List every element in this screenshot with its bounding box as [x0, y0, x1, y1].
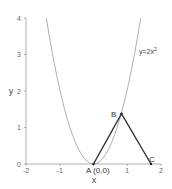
triangle-abc: [94, 114, 152, 164]
x-tick-label-2: 2: [159, 167, 163, 174]
point-b: [120, 112, 122, 114]
label-b: B: [111, 110, 116, 119]
y-tick-label-0: 0: [17, 161, 21, 168]
chart: 0 1 2 3 4 -2 -1 1 2 x y A (0,0) B C y=2x…: [0, 0, 172, 189]
x-axis-label: x: [92, 175, 97, 185]
label-a: A (0,0): [86, 166, 110, 175]
y-tick-label-2: 2: [17, 88, 21, 95]
label-c: C: [149, 155, 155, 164]
x-tick-label-neg2: -2: [23, 167, 29, 174]
y-axis-label: y: [9, 86, 14, 96]
parabola-curve: [46, 18, 140, 164]
curve-label: y=2x2: [139, 46, 157, 56]
y-tick-label-4: 4: [17, 15, 21, 22]
x-tick-label-1: 1: [125, 167, 129, 174]
y-tick-label-1: 1: [17, 124, 21, 131]
x-tick-label-neg1: -1: [57, 167, 63, 174]
y-tick-label-3: 3: [17, 51, 21, 58]
